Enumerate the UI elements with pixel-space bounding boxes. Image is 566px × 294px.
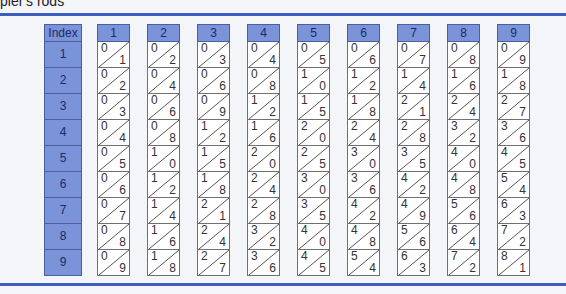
units-digit: 2: [269, 106, 276, 119]
rod-cell: 07: [97, 198, 130, 224]
units-digit: 7: [419, 54, 426, 67]
rod-header: 4: [247, 24, 280, 42]
units-digit: 5: [319, 158, 326, 171]
tens-digit: 1: [151, 146, 158, 159]
rod-cell: 08: [247, 68, 280, 94]
rod-cell: 24: [347, 120, 380, 146]
rod-cell: 03: [197, 42, 230, 68]
rod-cell: 08: [147, 120, 180, 146]
units-digit: 5: [419, 158, 426, 171]
tens-digit: 0: [151, 68, 158, 81]
rod-cell: 15: [197, 146, 230, 172]
rod-header: 5: [297, 24, 330, 42]
rod-cell: 27: [197, 250, 230, 276]
rod-cell: 06: [147, 94, 180, 120]
units-digit: 1: [519, 262, 526, 275]
tens-digit: 4: [501, 146, 508, 159]
tens-digit: 0: [401, 42, 408, 55]
units-digit: 6: [369, 184, 376, 197]
index-row-label: 8: [44, 224, 82, 250]
tens-digit: 3: [451, 120, 458, 133]
rod-cell: 09: [497, 42, 530, 68]
units-digit: 5: [319, 54, 326, 67]
rod-cell: 16: [147, 224, 180, 250]
units-digit: 4: [269, 54, 276, 67]
units-digit: 2: [169, 184, 176, 197]
tens-digit: 1: [251, 120, 258, 133]
units-digit: 3: [119, 106, 126, 119]
tens-digit: 2: [301, 146, 308, 159]
tens-digit: 4: [351, 198, 358, 211]
rod-cell: 18: [147, 250, 180, 276]
units-digit: 1: [219, 210, 226, 223]
tens-digit: 1: [201, 172, 208, 185]
rod-cell: 08: [97, 224, 130, 250]
tens-digit: 0: [101, 94, 108, 107]
tens-digit: 2: [251, 172, 258, 185]
units-digit: 6: [469, 80, 476, 93]
units-digit: 7: [119, 210, 126, 223]
tens-digit: 2: [501, 94, 508, 107]
rod-header: 6: [347, 24, 380, 42]
rod-cell: 54: [347, 250, 380, 276]
units-digit: 8: [369, 236, 376, 249]
rod-cell: 48: [447, 172, 480, 198]
tens-digit: 0: [101, 120, 108, 133]
rod-header: 1: [97, 24, 130, 42]
units-digit: 3: [519, 210, 526, 223]
tens-digit: 1: [151, 172, 158, 185]
units-digit: 5: [319, 210, 326, 223]
rod-header: 7: [397, 24, 430, 42]
rod-cell: 12: [147, 172, 180, 198]
tens-digit: 0: [451, 42, 458, 55]
units-digit: 3: [419, 262, 426, 275]
tens-digit: 0: [101, 68, 108, 81]
rod-cell: 18: [497, 68, 530, 94]
rod-cell: 16: [247, 120, 280, 146]
tens-digit: 1: [201, 120, 208, 133]
tens-digit: 0: [151, 120, 158, 133]
tens-digit: 0: [101, 146, 108, 159]
units-digit: 6: [469, 210, 476, 223]
index-row-label: 5: [44, 146, 82, 172]
index-row-label: 3: [44, 94, 82, 120]
tens-digit: 3: [351, 172, 358, 185]
units-digit: 2: [469, 132, 476, 145]
units-digit: 8: [169, 132, 176, 145]
rod-cell: 10: [297, 68, 330, 94]
tens-digit: 6: [401, 250, 408, 263]
units-digit: 4: [169, 210, 176, 223]
units-digit: 5: [319, 106, 326, 119]
units-digit: 8: [419, 132, 426, 145]
rod-8: 8081624324048566472: [447, 24, 480, 276]
rod-2: 2020406081012141618: [147, 24, 180, 276]
units-digit: 4: [419, 80, 426, 93]
tens-digit: 0: [201, 68, 208, 81]
units-digit: 0: [469, 158, 476, 171]
tens-digit: 1: [251, 94, 258, 107]
tens-digit: 0: [251, 42, 258, 55]
tens-digit: 0: [101, 198, 108, 211]
rod-cell: 35: [297, 198, 330, 224]
rod-cell: 12: [197, 120, 230, 146]
units-digit: 8: [219, 184, 226, 197]
rod-cell: 64: [447, 224, 480, 250]
tens-digit: 3: [301, 172, 308, 185]
units-digit: 8: [169, 262, 176, 275]
tens-digit: 5: [451, 198, 458, 211]
units-digit: 9: [519, 54, 526, 67]
tens-digit: 0: [101, 250, 108, 263]
units-digit: 6: [419, 236, 426, 249]
tens-digit: 3: [301, 198, 308, 211]
index-row-label: 6: [44, 172, 82, 198]
tens-digit: 0: [301, 42, 308, 55]
rod-cell: 42: [397, 172, 430, 198]
tens-digit: 2: [401, 120, 408, 133]
rod-cell: 14: [147, 198, 180, 224]
units-digit: 2: [219, 132, 226, 145]
rod-cell: 18: [347, 94, 380, 120]
units-digit: 3: [219, 54, 226, 67]
rod-1: 1010203040506070809: [97, 24, 130, 276]
tens-digit: 6: [451, 224, 458, 237]
units-digit: 6: [169, 106, 176, 119]
